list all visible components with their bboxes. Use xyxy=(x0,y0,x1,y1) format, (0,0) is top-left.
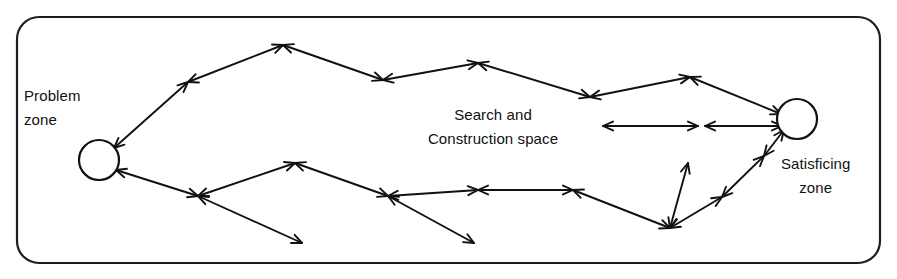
search-space-label: Search and Construction space xyxy=(403,103,583,152)
upper-segment-4 xyxy=(478,63,590,97)
lower-segment-7 xyxy=(722,156,764,197)
problem-zone-label-line2: zone xyxy=(24,108,81,132)
upper-segment-3 xyxy=(383,63,478,80)
problem-zone-node xyxy=(79,140,119,180)
search-space-label-line1: Search and xyxy=(403,103,583,127)
problem-zone-label-line1: Problem xyxy=(24,84,81,108)
lower-segment-0 xyxy=(116,170,198,196)
search-space-label-line2: Construction space xyxy=(403,127,583,151)
upper-segment-0 xyxy=(114,82,188,148)
satisficing-zone-node xyxy=(777,99,817,139)
lower-segment-1 xyxy=(198,163,295,196)
upper-segment-1 xyxy=(188,45,283,82)
upper-segment-5 xyxy=(590,77,690,97)
upper-segment-2 xyxy=(283,45,383,80)
lower-segment-5 xyxy=(573,190,670,228)
dead-end-branch-lower-mid xyxy=(388,196,474,243)
problem-zone-label: Problem zone xyxy=(24,84,81,133)
satisficing-zone-label-line2: zone xyxy=(781,176,850,200)
diagram-canvas: Problem zone Search and Construction spa… xyxy=(0,0,897,279)
upper-segment-6 xyxy=(690,77,781,114)
satisficing-zone-label-line1: Satisficing xyxy=(781,152,850,176)
lower-segment-3 xyxy=(388,190,478,196)
dead-end-branch-lower-left xyxy=(198,196,302,243)
lower-segment-2 xyxy=(295,163,388,196)
satisficing-zone-label: Satisficing zone xyxy=(781,152,850,201)
